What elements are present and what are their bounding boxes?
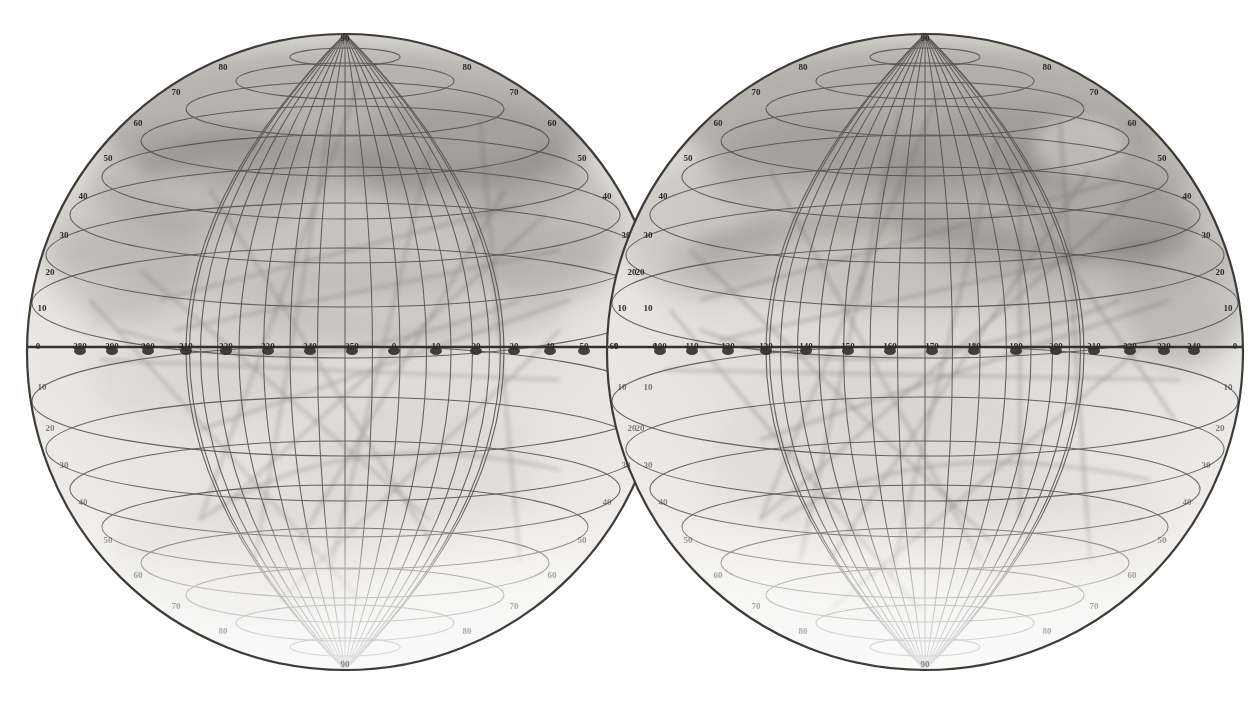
right-lon-label: 230 [1157, 341, 1171, 351]
left-lon-label: 330 [261, 341, 275, 351]
right-lat-label-w: 50 [684, 153, 694, 163]
right-lat-label-w: 80 [799, 626, 809, 636]
left-lon-label: 0 [392, 341, 397, 351]
left-lat-label-e: 40 [603, 191, 613, 201]
mars-map-canvas: 90 90 280 290 300 310 320 330 340 350 0 … [0, 0, 1257, 703]
right-lat-label-e: 70 [1090, 601, 1100, 611]
right-lon-label: 200 [1049, 341, 1063, 351]
right-lat-label-e: 10 [1224, 303, 1234, 313]
right-lat-label-w: 60 [714, 570, 724, 580]
right-lon-label: 210 [1087, 341, 1101, 351]
left-lat-label-e: 30 [622, 460, 632, 470]
right-lat-label-e: 40 [1183, 191, 1193, 201]
right-lat-label-e: 60 [1128, 570, 1138, 580]
right-lon-label: 120 [721, 341, 735, 351]
left-lat-label-w: 70 [172, 601, 182, 611]
right-lat-label-w: 30 [644, 230, 654, 240]
left-lon-label: 10 [432, 341, 442, 351]
right-lat-label-e: 10 [1224, 382, 1234, 392]
right-lon-label: 160 [883, 341, 897, 351]
left-lat-label-w: 60 [134, 118, 144, 128]
left-lat-label-w: 20 [46, 423, 56, 433]
left-lon-label: 350 [345, 341, 359, 351]
right-lat-label-e: 80 [1043, 62, 1053, 72]
right-lat-label-e: 20 [1216, 267, 1226, 277]
left-grain-overlay [27, 34, 663, 670]
left-lat-label-w: 80 [219, 62, 229, 72]
left-lon-label: 50 [580, 341, 590, 351]
left-lat-label-e: 40 [603, 497, 613, 507]
left-lon-label: 20 [472, 341, 482, 351]
right-lat-label-w: 0 [614, 341, 619, 351]
right-grain-overlay [607, 34, 1243, 670]
right-lat-label-e: 40 [1183, 497, 1193, 507]
left-hemisphere [27, 34, 663, 670]
left-lat-label-w: 60 [134, 570, 144, 580]
right-lat-label-e: 80 [1043, 626, 1053, 636]
right-lat-label-w: 20 [628, 267, 638, 277]
left-lat-label-w: 40 [79, 497, 89, 507]
left-lat-label-w: 30 [60, 460, 70, 470]
left-lat-label-w: 30 [60, 230, 70, 240]
right-lat-label-w: 70 [752, 87, 762, 97]
right-lat-label-w: 10 [618, 382, 628, 392]
left-lat-label-w: 40 [79, 191, 89, 201]
left-lon-label: 340 [303, 341, 317, 351]
right-lat-label-w: 50 [684, 535, 694, 545]
right-lat-label-w: 30 [644, 460, 654, 470]
right-lat-label-e: 70 [1090, 87, 1100, 97]
left-lat-label-e: 10 [644, 303, 654, 313]
left-lat-label-e: 50 [578, 535, 588, 545]
mars-map-figure: 90 90 280 290 300 310 320 330 340 350 0 … [0, 0, 1257, 703]
right-lat-label-e: 20 [1216, 423, 1226, 433]
left-lon-label: 280 [73, 341, 87, 351]
right-lat-label-w: 70 [752, 601, 762, 611]
right-lon-label: 220 [1123, 341, 1137, 351]
right-lat-label-w: 60 [714, 118, 724, 128]
left-lat-label-e: 30 [622, 230, 632, 240]
left-lat-label-e: 70 [510, 87, 520, 97]
left-lat-label-w: 10 [38, 303, 48, 313]
left-lat-label-e: 60 [548, 118, 558, 128]
left-north-pole-label: 90 [341, 33, 351, 43]
right-lon-label: 110 [685, 341, 699, 351]
left-lat-label-e: 80 [463, 626, 473, 636]
right-lat-label-e: 50 [1158, 153, 1168, 163]
left-south-pole-label: 90 [341, 659, 351, 669]
right-north-pole-label: 90 [921, 33, 931, 43]
left-lat-label-e: 50 [578, 153, 588, 163]
left-lat-label-w: 20 [46, 267, 56, 277]
left-lat-label-w: 10 [38, 382, 48, 392]
right-lon-label: 140 [799, 341, 813, 351]
left-lat-label-w: 70 [172, 87, 182, 97]
right-lat-label-w: 40 [659, 191, 669, 201]
left-lat-label-w: 0 [36, 341, 41, 351]
right-lat-label-w: 40 [659, 497, 669, 507]
right-lat-label-e: 60 [1128, 118, 1138, 128]
left-lat-label-e: 20 [636, 423, 646, 433]
left-lat-label-e: 70 [510, 601, 520, 611]
left-lat-label-e: 20 [636, 267, 646, 277]
right-lat-label-w: 20 [628, 423, 638, 433]
left-lon-label: 30 [510, 341, 520, 351]
left-lat-label-w: 50 [104, 153, 114, 163]
left-lat-label-e: 60 [548, 570, 558, 580]
left-lon-label: 290 [105, 341, 119, 351]
left-lat-label-w: 50 [104, 535, 114, 545]
right-lat-label-e: 30 [1202, 460, 1212, 470]
right-lon-label: 170 [925, 341, 939, 351]
right-lon-label: 180 [967, 341, 981, 351]
right-lat-label-w: 10 [618, 303, 628, 313]
left-lon-label: 300 [141, 341, 155, 351]
left-lat-label-e: 80 [463, 62, 473, 72]
right-lon-label: 190 [1009, 341, 1023, 351]
right-lon-label: 150 [841, 341, 855, 351]
right-south-pole-label: 90 [921, 659, 931, 669]
right-lon-label: 240 [1187, 341, 1201, 351]
left-lat-label-w: 80 [219, 626, 229, 636]
right-lat-label-e: 50 [1158, 535, 1168, 545]
right-lat-label-e: 30 [1202, 230, 1212, 240]
left-lon-label: 320 [219, 341, 233, 351]
left-lat-label-e: 10 [644, 382, 654, 392]
left-lon-label: 40 [546, 341, 556, 351]
